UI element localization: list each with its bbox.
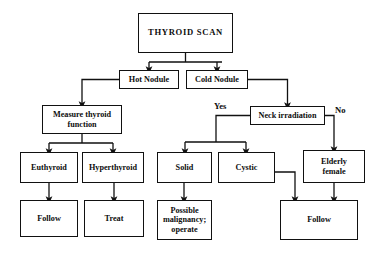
node-label: Cystic [234, 163, 260, 172]
connector-hot-to-measure [82, 80, 119, 106]
node-label: Hyperthyroid [87, 163, 139, 172]
connector-scan-to-hot [149, 53, 222, 70]
connector-cystic-to-follow [275, 172, 295, 200]
flowchart-canvas: THYROID SCAN Hot Nodule Cold Nodule Meas… [0, 0, 382, 254]
node-label: Solid [174, 163, 196, 172]
connector-cold-to-neck [248, 80, 288, 107]
node-label: Follow [35, 214, 63, 223]
node-label: Treat [103, 214, 126, 223]
connector-measure-split [49, 134, 113, 152]
node-label: Hot Nodule [127, 75, 171, 84]
node-euthyroid: Euthyroid [20, 152, 78, 183]
node-follow-euthyroid: Follow [20, 200, 78, 237]
node-label: Cold Nodule [193, 75, 241, 84]
node-cold-nodule: Cold Nodule [186, 70, 248, 89]
node-thyroid-scan: THYROID SCAN [138, 13, 233, 53]
connector-neck-yes-branch [185, 116, 250, 153]
node-hot-nodule: Hot Nodule [119, 70, 179, 89]
node-label: THYROID SCAN [146, 28, 225, 38]
node-solid: Solid [157, 152, 212, 183]
node-label: Elderly female [319, 157, 349, 175]
connector-neck-no-branch [325, 116, 334, 151]
node-possible-malignancy-operate: Possible malignancy; operate [157, 200, 212, 240]
node-elderly-female: Elderly female [303, 150, 365, 183]
node-label: Euthyroid [29, 163, 69, 172]
edge-label-yes: Yes [214, 101, 226, 111]
node-hyperthyroid: Hyperthyroid [82, 152, 144, 183]
edge-label-no: No [335, 105, 346, 115]
node-neck-irradiation: Neck irradiation [250, 106, 325, 125]
node-measure-thyroid-function: Measure thyroid function [42, 105, 122, 134]
node-label: Measure thyroid function [51, 110, 113, 128]
node-follow-nodule: Follow [280, 200, 358, 240]
node-cystic: Cystic [218, 152, 275, 183]
node-label: Follow [305, 215, 333, 224]
node-label: Neck irradiation [257, 111, 319, 120]
node-treat: Treat [84, 200, 144, 237]
node-label: Possible malignancy; operate [161, 206, 208, 234]
